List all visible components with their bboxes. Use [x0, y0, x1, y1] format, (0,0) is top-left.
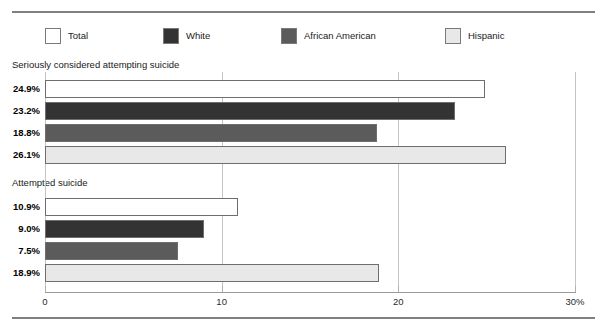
legend-item-label: Hispanic [468, 31, 504, 41]
x-axis-tick-label: 30% [565, 297, 584, 307]
bar-value-label: 23.2% [4, 102, 40, 120]
x-axis-tick-label: 0 [42, 297, 47, 307]
legend-item-label: Total [68, 31, 88, 41]
bar-value-label: 9.0% [4, 220, 40, 238]
bar-white [45, 220, 204, 238]
bar-value-label: 26.1% [4, 146, 40, 164]
bar-total [45, 198, 238, 216]
top-rule [12, 11, 595, 13]
bottom-rule [12, 317, 595, 319]
bar-value-label: 24.9% [4, 80, 40, 98]
legend-item-white[interactable]: White [163, 25, 210, 47]
legend-item-label: White [186, 31, 210, 41]
x-axis-tick-0 [45, 286, 46, 292]
plot-area: 24.9%23.2%18.8%26.1%10.9%9.0%7.5%18.9% [45, 72, 575, 292]
bar-hispanic [45, 146, 506, 164]
x-axis-tick-label: 10 [216, 297, 227, 307]
bar-value-label: 18.8% [4, 124, 40, 142]
bar-african-american [45, 124, 377, 142]
bar-total [45, 80, 485, 98]
legend-item-hispanic[interactable]: Hispanic [445, 25, 504, 47]
bar-african-american [45, 242, 178, 260]
chart-figure: TotalWhiteAfrican AmericanHispanic Serio… [0, 0, 607, 328]
legend-swatch-icon [445, 28, 461, 44]
bar-white [45, 102, 455, 120]
legend-swatch-icon [45, 28, 61, 44]
x-axis-tick-30 [575, 286, 576, 292]
bar-hispanic [45, 264, 379, 282]
bar-value-label: 18.9% [4, 264, 40, 282]
x-axis-line [45, 292, 576, 293]
legend-swatch-icon [281, 28, 297, 44]
x-axis-tick-10 [222, 286, 223, 292]
group-title-seriously-considered: Seriously considered attempting suicide [12, 60, 179, 70]
legend-item-total[interactable]: Total [45, 25, 88, 47]
bar-value-label: 10.9% [4, 198, 40, 216]
gridline-30 [575, 72, 576, 292]
x-axis-tick-20 [398, 286, 399, 292]
legend-item-label: African American [304, 31, 376, 41]
bar-value-label: 7.5% [4, 242, 40, 260]
x-axis-tick-label: 20 [393, 297, 404, 307]
legend-swatch-icon [163, 28, 179, 44]
legend-item-african-american[interactable]: African American [281, 25, 376, 47]
